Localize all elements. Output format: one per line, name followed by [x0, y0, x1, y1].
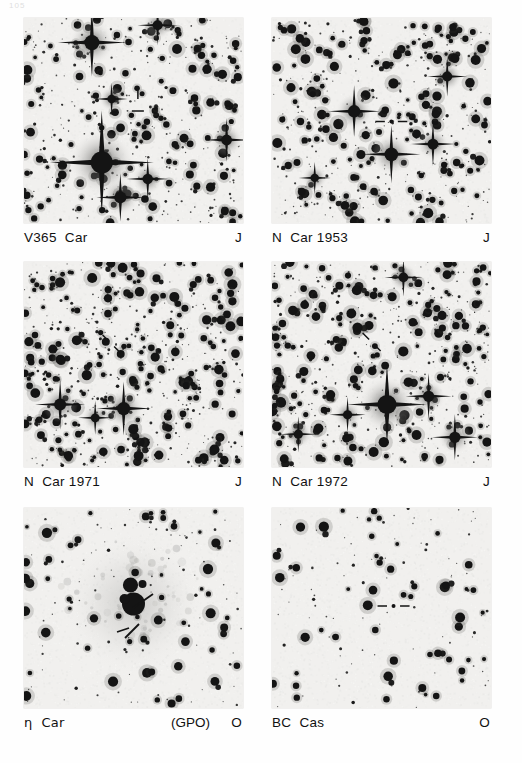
plate-caption-bc-cas: BC CasO	[272, 715, 491, 730]
plate-letter-bc-cas: O	[479, 715, 491, 730]
plate-image-v365-car	[24, 18, 243, 223]
object-label-n-car-1953: N Car 1953	[272, 230, 348, 245]
plate-grid: V365 CarJN Car 1953JN Car 1971JN Car 197…	[0, 0, 522, 763]
plate-image-n-car-1972	[272, 262, 491, 467]
plate-annotation-eta-car: (GPO)	[171, 715, 210, 730]
plate-caption-n-car-1971: N Car 1971J	[24, 474, 243, 489]
plate-panel-n-car-1953: N Car 1953J	[272, 18, 491, 223]
plate-letter-eta-car: O	[231, 715, 243, 730]
plate-panel-v365-car: V365 CarJ	[24, 18, 243, 223]
star-field-eta-car	[24, 508, 243, 708]
plate-letter-n-car-1972: J	[483, 474, 491, 489]
plate-letter-v365-car: J	[235, 230, 243, 245]
object-label-n-car-1972: N Car 1972	[272, 474, 348, 489]
plate-panel-bc-cas: BC CasO	[272, 508, 491, 708]
plate-panel-eta-car: η CarO(GPO)	[24, 508, 243, 708]
star-field-n-car-1971	[24, 262, 243, 467]
plate-letter-n-car-1971: J	[235, 474, 243, 489]
plate-image-n-car-1953	[272, 18, 491, 223]
plate-caption-v365-car: V365 CarJ	[24, 230, 243, 245]
object-label-n-car-1971: N Car 1971	[24, 474, 100, 489]
object-label-eta-car: η Car	[24, 715, 65, 730]
figure-page: 105 V365 CarJN Car 1953JN Car 1971JN Car…	[0, 0, 522, 763]
plate-panel-n-car-1972: N Car 1972J	[272, 262, 491, 467]
plate-image-bc-cas	[272, 508, 491, 708]
object-label-v365-car: V365 Car	[24, 230, 87, 245]
plate-panel-n-car-1971: N Car 1971J	[24, 262, 243, 467]
object-label-bc-cas: BC Cas	[272, 715, 324, 730]
plate-image-eta-car	[24, 508, 243, 708]
plate-letter-n-car-1953: J	[483, 230, 491, 245]
plate-caption-eta-car: η CarO	[24, 715, 243, 730]
star-field-bc-cas	[272, 508, 491, 708]
plate-caption-n-car-1972: N Car 1972J	[272, 474, 491, 489]
star-field-n-car-1972	[272, 262, 491, 467]
star-field-n-car-1953	[272, 18, 491, 223]
plate-image-n-car-1971	[24, 262, 243, 467]
star-field-v365-car	[24, 18, 243, 223]
plate-caption-n-car-1953: N Car 1953J	[272, 230, 491, 245]
